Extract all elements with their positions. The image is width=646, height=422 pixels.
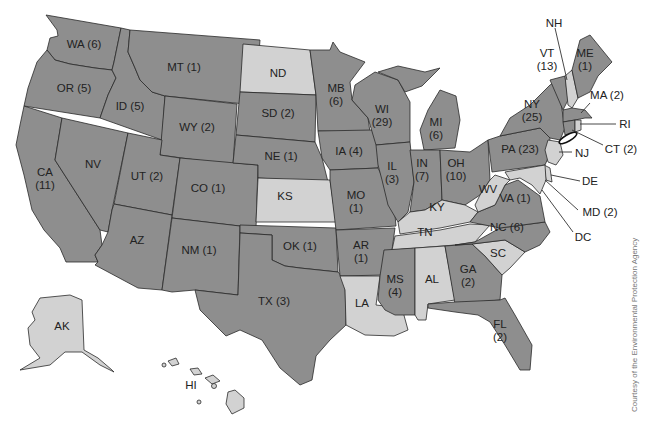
label-nv: NV xyxy=(85,158,101,170)
label-pa: PA (23) xyxy=(501,143,539,155)
label-ok: OK (1) xyxy=(283,240,317,252)
label-fl-count: (2) xyxy=(493,331,507,343)
label-mi-count: (6) xyxy=(429,129,443,141)
label-ar-count: (1) xyxy=(354,252,368,264)
label-ks: KS xyxy=(277,190,293,202)
leader-de xyxy=(551,175,580,181)
label-nj: NJ xyxy=(575,147,589,159)
state-fl[interactable] xyxy=(428,298,532,370)
label-me-count: (1) xyxy=(578,60,592,72)
label-mb: MB xyxy=(327,82,345,94)
state-hi-molokai xyxy=(212,384,217,389)
state-hi-kahoolawe xyxy=(197,400,201,404)
label-oh: OH xyxy=(447,157,464,169)
label-dc: DC xyxy=(575,231,592,243)
label-me: ME xyxy=(576,47,594,59)
label-mo-count: (1) xyxy=(349,202,363,214)
label-ca: CA xyxy=(37,166,53,178)
image-credit: Courtesy of the Environmental Protection… xyxy=(630,238,639,412)
label-wv: WV xyxy=(479,183,498,195)
label-tx: TX (3) xyxy=(258,295,290,307)
label-id: ID (5) xyxy=(116,100,145,112)
label-oh-count: (10) xyxy=(446,170,467,182)
label-ne: NE (1) xyxy=(264,150,297,162)
label-ms: MS xyxy=(386,273,404,285)
label-ky: KY xyxy=(429,201,445,213)
label-sc: SC xyxy=(490,247,506,259)
label-vt: VT xyxy=(540,47,555,59)
label-tn: TN xyxy=(417,226,432,238)
state-hi-oahu xyxy=(190,368,202,375)
leader-nh xyxy=(555,28,567,80)
leader-md xyxy=(545,180,578,210)
label-co: CO (1) xyxy=(191,182,226,194)
label-la: LA xyxy=(355,297,369,309)
label-ga-count: (2) xyxy=(461,276,475,288)
label-il-count: (3) xyxy=(385,173,399,185)
label-sd: SD (2) xyxy=(261,107,294,119)
label-ms-count: (4) xyxy=(388,286,402,298)
state-hi[interactable] xyxy=(226,390,244,414)
label-wi-count: (29) xyxy=(372,116,393,128)
label-mo: MO xyxy=(347,189,366,201)
state-hi-kauai xyxy=(168,358,179,366)
label-mb-count: (6) xyxy=(329,95,343,107)
label-ma: MA (2) xyxy=(590,89,624,101)
label-wi: WI xyxy=(375,103,389,115)
state-ri[interactable] xyxy=(575,120,581,132)
label-ri: RI xyxy=(619,118,631,130)
label-md: MD (2) xyxy=(582,206,617,218)
state-hi-niihau xyxy=(162,363,166,367)
state-nm[interactable] xyxy=(162,218,240,295)
label-ny-count: (25) xyxy=(522,111,543,123)
label-de: DE xyxy=(582,175,598,187)
label-ut: UT (2) xyxy=(131,170,164,182)
label-al: AL xyxy=(425,273,440,285)
label-nc: NC (6) xyxy=(490,221,524,233)
label-hi: HI xyxy=(185,379,197,391)
state-hi-maui xyxy=(205,375,220,384)
label-fl: FL xyxy=(493,318,507,330)
label-ar: AR xyxy=(353,239,369,251)
label-nd: ND xyxy=(270,67,287,79)
label-nm: NM (1) xyxy=(181,244,216,256)
label-il: IL xyxy=(387,160,397,172)
label-ak: AK xyxy=(54,320,70,332)
leader-ct xyxy=(572,130,603,145)
label-ct: CT (2) xyxy=(605,143,638,155)
state-ak[interactable] xyxy=(20,295,114,372)
label-vt-count: (13) xyxy=(537,60,558,72)
us-map: WA (6) OR (5) CA (11) ID (5) NV MT (1) W… xyxy=(0,0,646,422)
label-wa: WA (6) xyxy=(67,38,102,50)
label-in-count: (7) xyxy=(415,170,429,182)
label-wy: WY (2) xyxy=(179,121,215,133)
label-ca-count: (11) xyxy=(35,179,55,191)
label-in: IN xyxy=(416,157,428,169)
state-ks[interactable] xyxy=(256,178,336,222)
label-nh: NH xyxy=(546,17,563,29)
label-ia: IA (4) xyxy=(335,145,363,157)
label-mi: MI xyxy=(430,116,443,128)
label-az: AZ xyxy=(130,234,145,246)
label-va: VA (1) xyxy=(499,192,530,204)
label-ga: GA xyxy=(460,263,477,275)
label-ny: NY xyxy=(524,98,540,110)
label-mt: MT (1) xyxy=(167,61,201,73)
label-or: OR (5) xyxy=(57,82,92,94)
